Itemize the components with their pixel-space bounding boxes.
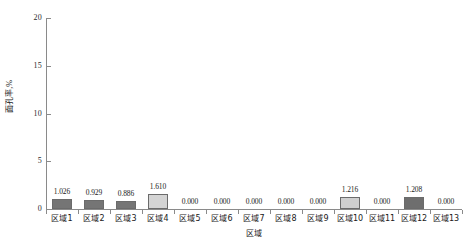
bar: [116, 201, 136, 209]
bar-value-label: 0.000: [426, 198, 466, 206]
y-tick-label: 15: [0, 62, 42, 70]
bar-chart: 面孔率,% 05101520 1.0260.9290.8861.6100.000…: [0, 0, 471, 251]
bar-value-label: 1.610: [138, 183, 178, 191]
bar: [52, 199, 72, 209]
plot-area: [46, 18, 462, 209]
y-tick-label: 10: [0, 110, 42, 118]
bar-value-label: 1.216: [330, 186, 370, 194]
category-label: 区域13: [424, 214, 468, 224]
y-tick-label: 0: [0, 205, 42, 213]
bar: [148, 194, 168, 209]
bar-value-label: 0.886: [106, 190, 146, 198]
bar-value-label: 1.208: [394, 186, 434, 194]
y-tick-label: 20: [0, 14, 42, 22]
bar: [84, 200, 104, 209]
y-tick-label: 5: [0, 157, 42, 165]
x-axis-title: 区域: [224, 229, 284, 239]
y-tick-mark: [47, 209, 51, 210]
x-axis-line: [46, 209, 462, 210]
bar: [340, 197, 360, 209]
bar: [404, 197, 424, 209]
bar-value-label: 0.000: [362, 198, 402, 206]
bar-value-label: 0.000: [298, 198, 338, 206]
y-axis-title: 面孔率,%: [5, 62, 14, 132]
